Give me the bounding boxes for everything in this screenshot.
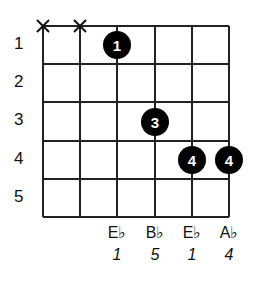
fret-number: 5	[14, 187, 28, 207]
note-name: A♭	[214, 223, 244, 242]
finger-dot: 4	[215, 146, 243, 174]
finger-dot: 4	[178, 146, 206, 174]
fret-number: 4	[14, 149, 28, 169]
fret-number: 1	[14, 34, 28, 54]
fret-number: 3	[14, 110, 28, 130]
note-name: E♭	[177, 223, 207, 242]
fret-number: 2	[14, 72, 28, 92]
note-name: B♭	[140, 223, 170, 242]
interval-degree: 1	[177, 246, 207, 264]
interval-degree: 4	[214, 246, 244, 264]
finger-dot: 3	[141, 108, 169, 136]
note-name: E♭	[102, 223, 132, 242]
interval-degree: 1	[102, 246, 132, 264]
interval-degree: 5	[140, 246, 170, 264]
finger-dot: 1	[103, 31, 131, 59]
